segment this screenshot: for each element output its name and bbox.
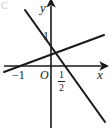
origin-label: O [40,69,49,81]
y-axis-label: y [40,1,46,14]
x-axis-label: x [97,68,103,81]
fraction-denominator: 2 [58,83,65,93]
y-tick-label-one: 1 [43,30,49,42]
clipped-letter-artifact: C [1,0,8,11]
x-tick-label-one-half: 1 2 [58,69,65,93]
fraction-numerator: 1 [58,70,65,80]
fraction-one-half: 1 2 [58,70,65,93]
x-tick-label-negative-one: −1 [12,69,25,81]
coordinate-plane-figure: y x O 1 −1 1 2 C [0,0,111,132]
graph-canvas [0,0,111,132]
